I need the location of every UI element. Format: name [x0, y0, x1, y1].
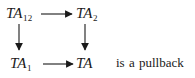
- object-top-right-subscript: 2: [92, 13, 97, 23]
- object-bottom-left-subscript: 1: [26, 63, 31, 73]
- object-bottom-right: TA: [76, 56, 93, 73]
- object-bottom-right-base: TA: [76, 55, 92, 71]
- object-top-right: TA2: [76, 6, 98, 23]
- object-top-left-subscript: 12: [22, 13, 32, 23]
- object-top-right-base: TA: [76, 5, 92, 21]
- object-bottom-right-subscript: [92, 63, 93, 73]
- object-bottom-left: TA1: [10, 56, 32, 73]
- object-bottom-left-base: TA: [10, 55, 26, 71]
- object-top-left-base: TA: [6, 5, 22, 21]
- figure-caption-text: is a pullback: [116, 56, 184, 69]
- object-top-left: TA12: [6, 6, 33, 23]
- figure-commutative-diagram: TA12 TA2 TA1 TA is a pullback: [0, 0, 195, 78]
